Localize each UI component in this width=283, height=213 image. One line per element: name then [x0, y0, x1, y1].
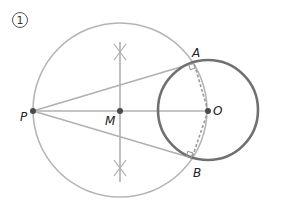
point-m	[117, 108, 123, 114]
dashed-radius-oa	[194, 63, 208, 111]
label-o: O	[213, 104, 222, 118]
dashed-radius-ob	[192, 111, 208, 158]
right-angle-mark-a	[189, 63, 195, 69]
label-b: B	[193, 166, 201, 180]
point-p	[30, 108, 36, 114]
label-p: P	[20, 110, 28, 124]
label-m: M	[105, 114, 116, 128]
tangent-construction-figure: 1 P M O	[0, 0, 283, 213]
label-a: A	[191, 46, 200, 60]
diagram-canvas: 1 P M O	[0, 0, 283, 213]
step-number-text: 1	[17, 14, 24, 27]
point-o	[205, 108, 211, 114]
step-number-badge: 1	[13, 13, 28, 28]
tangent-pa	[33, 63, 194, 111]
right-angle-mark-b	[186, 151, 192, 157]
